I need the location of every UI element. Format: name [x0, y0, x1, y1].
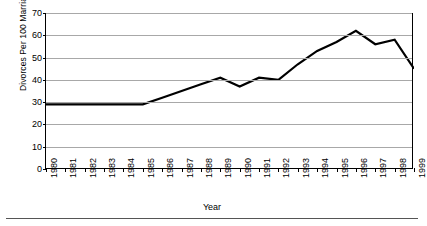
gridline [46, 124, 412, 125]
x-axis-tick-mark [104, 168, 105, 172]
y-axis-tick-label: 10 [20, 142, 42, 152]
x-axis-tick-label: 1997 [378, 158, 388, 178]
x-axis-tick-label: 1988 [204, 158, 214, 178]
y-axis-tick-label: 50 [20, 53, 42, 63]
x-axis-tick-label: 1983 [107, 158, 117, 178]
x-axis-tick-mark [123, 168, 124, 172]
x-axis-tick-mark [162, 168, 163, 172]
y-axis-tick-label: 70 [20, 8, 42, 18]
x-axis-tick-mark [65, 168, 66, 172]
x-axis-tick-mark [395, 168, 396, 172]
x-axis-tick-mark [46, 168, 47, 172]
x-axis-tick-label: 1984 [126, 158, 136, 178]
x-axis-tick-mark [259, 168, 260, 172]
gridline [46, 102, 412, 103]
x-axis-tick-label: 1987 [185, 158, 195, 178]
x-axis-tick-mark [298, 168, 299, 172]
x-axis-tick-mark [240, 168, 241, 172]
x-axis-tick-mark [85, 168, 86, 172]
x-axis-tick-mark [356, 168, 357, 172]
y-axis-tick-mark [43, 147, 46, 148]
data-series-line [46, 13, 414, 169]
x-axis-tick-mark [143, 168, 144, 172]
x-axis-tick-label: 1981 [68, 158, 78, 178]
x-axis-tick-label: 1994 [320, 158, 330, 178]
x-axis-tick-label: 1982 [88, 158, 98, 178]
x-axis-tick-label: 1980 [49, 158, 59, 178]
y-axis-tick-mark [43, 13, 46, 14]
y-axis-tick-label: 0 [20, 164, 42, 174]
x-axis-tick-mark [414, 168, 415, 172]
y-axis-tick-label: 20 [20, 119, 42, 129]
gridline [46, 35, 412, 36]
x-axis-tick-label: 1992 [281, 158, 291, 178]
y-axis-tick-label: 30 [20, 97, 42, 107]
x-axis-tick-label: 1996 [359, 158, 369, 178]
y-axis-tick-mark [43, 35, 46, 36]
x-axis-tick-label: 1999 [417, 158, 427, 178]
x-axis-tick-mark [201, 168, 202, 172]
x-axis-tick-mark [375, 168, 376, 172]
x-axis-tick-label: 1990 [243, 158, 253, 178]
x-axis-tick-mark [278, 168, 279, 172]
y-axis-tick-mark [43, 58, 46, 59]
x-axis-tick-label: 1991 [262, 158, 272, 178]
x-axis-tick-mark [337, 168, 338, 172]
y-axis-tick-mark [43, 124, 46, 125]
y-axis-tick-mark [43, 102, 46, 103]
y-axis-tick-label: 40 [20, 75, 42, 85]
x-axis-tick-label: 1993 [301, 158, 311, 178]
gridline [46, 147, 412, 148]
x-axis-tick-mark [182, 168, 183, 172]
x-axis-title: Year [0, 202, 424, 212]
x-axis-tick-label: 1986 [165, 158, 175, 178]
x-axis-tick-label: 1985 [146, 158, 156, 178]
x-axis-tick-mark [317, 168, 318, 172]
gridline [46, 13, 412, 14]
footer-divider [6, 218, 418, 219]
plot-area: 010203040506070 [45, 13, 413, 169]
x-axis-tick-label: 1989 [223, 158, 233, 178]
y-axis-tick-label: 60 [20, 30, 42, 40]
x-axis-tick-mark [220, 168, 221, 172]
x-axis-tick-label: 1995 [340, 158, 350, 178]
gridline [46, 58, 412, 59]
y-axis-tick-mark [43, 80, 46, 81]
x-axis-tick-label: 1998 [398, 158, 408, 178]
gridline [46, 80, 412, 81]
